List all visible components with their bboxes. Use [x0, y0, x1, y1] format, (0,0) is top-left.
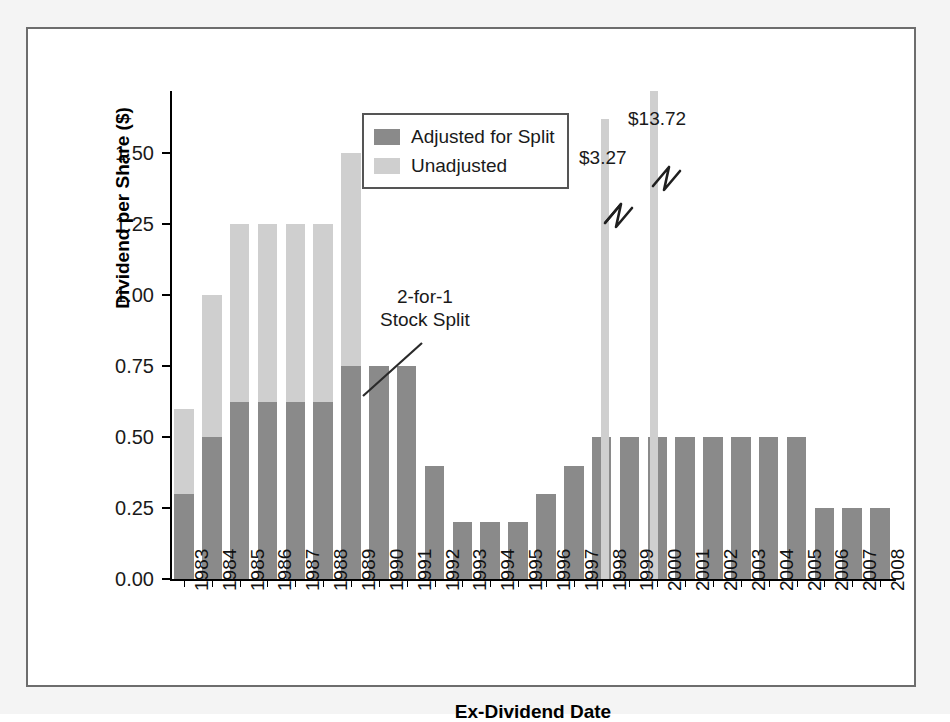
x-axis-tick	[462, 581, 463, 587]
x-axis-tick-label: 1996	[553, 549, 575, 591]
bar-separator	[333, 91, 337, 579]
x-axis-tick-label: 1987	[302, 549, 324, 591]
x-axis-tick	[880, 581, 881, 587]
x-axis-tick-label: 2008	[887, 549, 909, 591]
x-axis-tick	[379, 581, 380, 587]
bar-column-2004	[759, 91, 778, 579]
bar-separator	[222, 91, 226, 579]
x-axis-title: Ex-Dividend Date	[170, 701, 896, 722]
x-axis-tick-label: 1983	[191, 549, 213, 591]
x-axis-tick	[629, 581, 630, 587]
chart-frame: 0.000.250.500.751.001.251.50 Dividend pe…	[26, 27, 916, 687]
x-axis-tick	[852, 581, 853, 587]
bar-column-2008	[870, 91, 889, 579]
bar-column-2003	[731, 91, 750, 579]
x-axis-tick-label: 1986	[274, 549, 296, 591]
bar-separator	[890, 91, 894, 579]
x-axis-tick-label: 1995	[525, 549, 547, 591]
spike-value-label-1: $3.27	[579, 146, 627, 169]
bar-separator	[751, 91, 755, 579]
x-axis-tick	[574, 581, 575, 587]
bar-column-1983	[174, 91, 193, 579]
bar-separator	[194, 91, 198, 579]
bar-column-1986	[258, 91, 277, 579]
legend-label: Adjusted for Split	[411, 126, 555, 148]
x-axis-tick-label: 2005	[804, 549, 826, 591]
stock-split-annotation: 2-for-1 Stock Split	[380, 285, 470, 331]
x-axis-tick-label: 1989	[358, 549, 380, 591]
x-axis-tick-label: 2006	[831, 549, 853, 591]
bar-column-2007	[842, 91, 861, 579]
x-axis-tick	[824, 581, 825, 587]
x-axis-tick	[797, 581, 798, 587]
y-axis-tick-label: 0.00	[94, 568, 154, 591]
x-axis-tick	[240, 581, 241, 587]
x-axis-tick	[267, 581, 268, 587]
x-axis-tick	[407, 581, 408, 587]
bar-column-1984	[202, 91, 221, 579]
x-axis-tick-label: 2003	[748, 549, 770, 591]
bar-column-2002	[703, 91, 722, 579]
bar-separator	[806, 91, 810, 579]
special-dividend-spike-1	[601, 119, 609, 579]
bar-separator	[695, 91, 699, 579]
legend-entry-1: Adjusted for Split	[374, 122, 555, 151]
x-axis-tick-label: 2002	[720, 549, 742, 591]
stock-split-leader-line	[360, 341, 424, 399]
x-axis-tick	[184, 581, 185, 587]
axis-break-zigzag-icon-2	[649, 160, 683, 212]
y-axis-tick-label: 0.25	[94, 497, 154, 520]
x-axis-tick	[323, 581, 324, 587]
bar-column-2006	[815, 91, 834, 579]
x-axis-tick	[546, 581, 547, 587]
bar-separator	[277, 91, 281, 579]
legend-swatch-icon	[374, 158, 400, 174]
x-axis-tick	[657, 581, 658, 587]
x-axis-tick	[602, 581, 603, 587]
bar-column-1985	[230, 91, 249, 579]
x-axis-tick	[212, 581, 213, 587]
legend-label: Unadjusted	[411, 155, 507, 177]
y-axis-tick-label: 0.50	[94, 426, 154, 449]
legend-entry-2: Unadjusted	[374, 151, 555, 180]
x-axis-tick-label: 1998	[609, 549, 631, 591]
bar-separator	[778, 91, 782, 579]
axis-break-zigzag-icon-1	[601, 197, 635, 249]
y-axis-tick-label: 0.75	[94, 355, 154, 378]
x-axis-tick	[490, 581, 491, 587]
chart-legend: Adjusted for SplitUnadjusted	[362, 113, 569, 189]
stock-split-annotation-line2: Stock Split	[380, 308, 470, 331]
bar-separator	[723, 91, 727, 579]
bar-column-2005	[787, 91, 806, 579]
bar-column-1987	[286, 91, 305, 579]
x-axis-tick	[435, 581, 436, 587]
y-axis-title: Dividend per Share ($)	[112, 58, 134, 358]
spike-value-label-2: $13.72	[628, 107, 686, 130]
x-axis-tick	[713, 581, 714, 587]
x-axis-tick-label: 1985	[247, 549, 269, 591]
bar-separator	[862, 91, 866, 579]
bar-column-1989	[341, 91, 360, 579]
x-axis-tick-label: 2001	[692, 549, 714, 591]
x-axis-tick-label: 1984	[219, 549, 241, 591]
x-axis-tick	[769, 581, 770, 587]
x-axis-tick-label: 1999	[636, 549, 658, 591]
x-axis-tick-label: 1988	[330, 549, 352, 591]
bar-column-1988	[313, 91, 332, 579]
x-axis-tick	[351, 581, 352, 587]
bar-separator	[639, 91, 643, 579]
legend-swatch-icon	[374, 129, 400, 145]
x-axis-tick-label: 1997	[581, 549, 603, 591]
x-axis-tick-label: 1991	[414, 549, 436, 591]
x-axis-tick-label: 1994	[497, 549, 519, 591]
x-axis-tick-labels: 1983198419851986198719881989199019911992…	[170, 581, 896, 701]
x-axis-tick	[685, 581, 686, 587]
x-axis-tick-label: 2004	[776, 549, 798, 591]
x-axis-tick	[295, 581, 296, 587]
stock-split-annotation-line1: 2-for-1	[380, 285, 470, 308]
x-axis-tick-label: 1990	[386, 549, 408, 591]
x-axis-tick-label: 1993	[469, 549, 491, 591]
x-axis-tick-label: 2000	[664, 549, 686, 591]
bar-separator	[834, 91, 838, 579]
